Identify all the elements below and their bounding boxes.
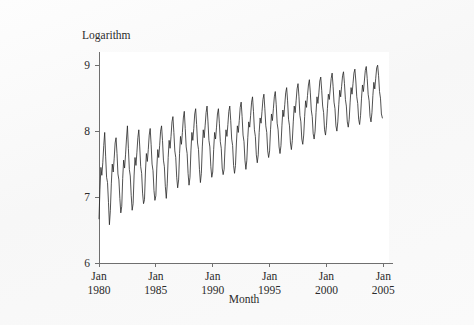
x-axis: Jan1980Jan1985Jan1990Jan1995Jan2000Jan20… [88, 263, 396, 296]
y-tick-label: 6 [84, 257, 90, 269]
x-tick-label-month: Jan [91, 270, 107, 282]
y-tick-group: 6789 [84, 59, 99, 269]
y-axis-title: Logarithm [82, 29, 131, 42]
x-tick-group: Jan1980Jan1985Jan1990Jan1995Jan2000Jan20… [88, 263, 396, 296]
time-series-chart: 6789 Jan1980Jan1985Jan1990Jan1995Jan2000… [0, 0, 474, 325]
x-tick-label-year: 1980 [88, 284, 111, 296]
y-tick-label: 7 [84, 191, 90, 203]
x-tick-label-year: 1990 [201, 284, 224, 296]
plot-surface: 6789 Jan1980Jan1985Jan1990Jan1995Jan2000… [0, 0, 474, 325]
y-tick-label: 8 [84, 125, 90, 137]
x-tick-label-year: 1985 [144, 284, 167, 296]
x-tick-label-month: Jan [205, 270, 221, 282]
x-tick-label-month: Jan [376, 270, 392, 282]
y-axis: 6789 [84, 52, 99, 269]
x-tick-label-month: Jan [148, 270, 164, 282]
x-tick-label-month: Jan [319, 270, 335, 282]
x-tick-label-year: 1995 [258, 284, 281, 296]
x-tick-label-year: 2000 [315, 284, 338, 296]
x-tick-label-year: 2005 [372, 284, 395, 296]
y-tick-label: 9 [84, 59, 90, 71]
x-axis-title: Month [229, 293, 260, 305]
x-tick-label-month: Jan [262, 270, 278, 282]
chart-page: 6789 Jan1980Jan1985Jan1990Jan1995Jan2000… [0, 0, 474, 325]
plot-area-background [99, 52, 389, 263]
